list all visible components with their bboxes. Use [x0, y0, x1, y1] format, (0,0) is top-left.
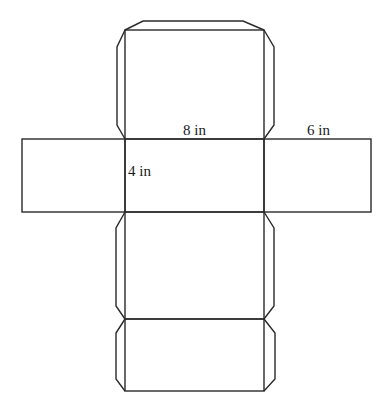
length-label: 8 in	[183, 122, 206, 138]
top-face-right-flap	[264, 30, 274, 139]
width-label: 6 in	[307, 122, 330, 138]
back-face-left-flap	[116, 319, 125, 391]
right-face	[264, 139, 371, 212]
left-face	[22, 139, 125, 212]
prism-net-diagram: 8 in 4 in 6 in	[0, 0, 390, 412]
bottom-face-right-flap	[264, 212, 274, 319]
bottom-face	[125, 212, 264, 319]
top-face-left-flap	[117, 30, 125, 139]
bottom-face-left-flap	[116, 212, 125, 319]
top-glue-flap	[125, 21, 264, 30]
back-face-right-flap	[264, 319, 275, 391]
back-face	[125, 319, 264, 391]
height-label: 4 in	[128, 163, 151, 179]
